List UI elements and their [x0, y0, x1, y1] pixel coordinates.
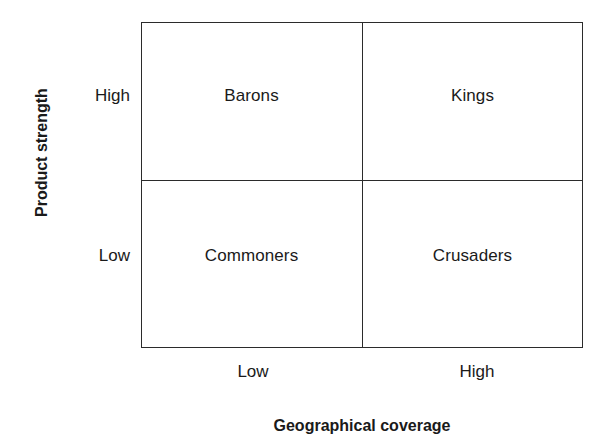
y-axis-tick-high: High	[95, 87, 130, 104]
y-axis-title: Product strength	[34, 133, 50, 217]
x-axis-tick-low: Low	[193, 363, 313, 380]
x-axis-title: Geographical coverage	[141, 418, 583, 434]
matrix-diagram: Product strength High Low Barons Kings C…	[0, 0, 610, 443]
matrix-horizontal-divider	[141, 180, 583, 181]
x-axis-tick-high: High	[417, 363, 537, 380]
quadrant-bottom-left: Commoners	[141, 247, 362, 264]
quadrant-bottom-right: Crusaders	[362, 247, 583, 264]
quadrant-top-left: Barons	[141, 87, 362, 104]
matrix-vertical-divider	[362, 22, 363, 348]
quadrant-top-right: Kings	[362, 87, 583, 104]
y-axis-tick-low: Low	[99, 247, 130, 264]
